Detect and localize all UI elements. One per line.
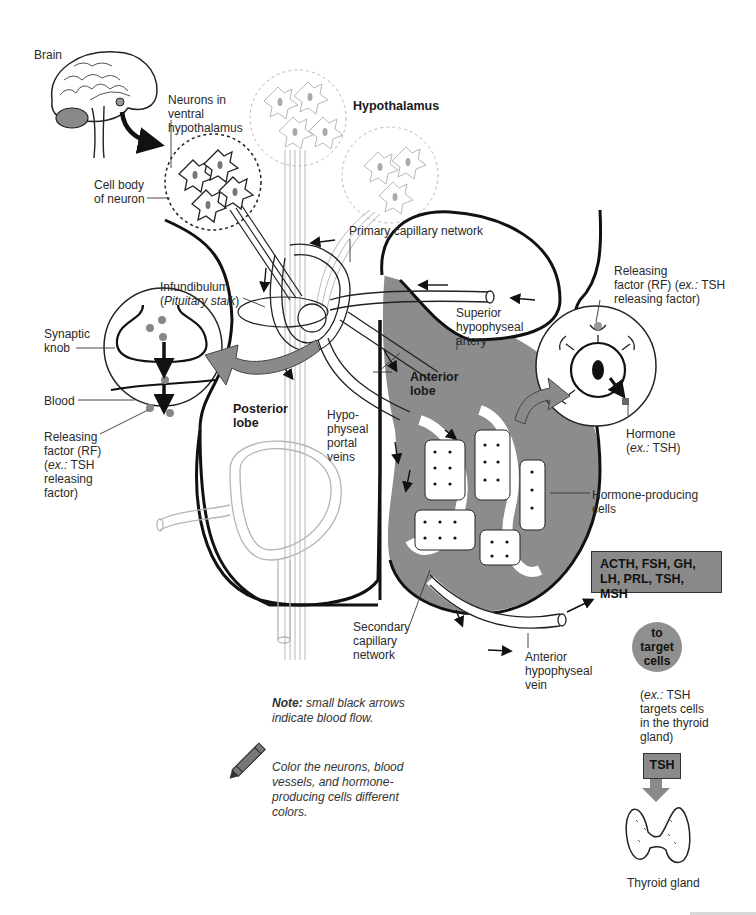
- label-primary-capillary-network: Primary capillary network: [349, 224, 483, 238]
- down-arrow-icon: [642, 778, 670, 802]
- label-hypothalamus: Hypothalamus: [353, 99, 439, 113]
- label-posterior-lobe: Posterior lobe: [233, 402, 288, 430]
- label-releasing-factor-right: Releasing factor (RF) (ex.: TSH releasin…: [614, 264, 725, 306]
- label-infundibulum: Infundibulum(Pituitary stalk): [160, 266, 239, 308]
- label-releasing-factor-left: Releasing factor (RF) (ex.: TSH releasin…: [44, 430, 101, 500]
- tsh-box: TSH: [643, 753, 681, 779]
- label-anterior-hypophyseal-vein: Anterior hypophyseal vein: [525, 650, 592, 692]
- label-target-example: (ex.: TSH targets cells in the thyroid g…: [640, 688, 709, 744]
- label-synaptic-knob: Synaptic knob: [44, 327, 90, 355]
- label-hypophyseal-portal-veins: Hypo- physeal portal veins: [327, 408, 368, 464]
- coloring-instruction: Color the neurons, blood vessels, and ho…: [272, 760, 412, 820]
- label-superior-hypophyseal-artery: Superior hypophyseal artery: [456, 306, 523, 348]
- target-cell-inset: [536, 306, 656, 426]
- anterior-pituitary-hormones-box: ACTH, FSH, GH, LH, PRL, TSH, MSH: [591, 551, 722, 593]
- target-cells-circle: to target cells: [632, 622, 682, 672]
- label-anterior-lobe: Anterior lobe: [410, 370, 459, 398]
- brain-illustration: [52, 52, 157, 158]
- label-hormone: Hormone (ex.: TSH): [626, 427, 680, 455]
- crayon-icon: [226, 743, 265, 782]
- note-blood-flow: Note: small black arrows indicate blood …: [272, 696, 412, 726]
- label-hormone-producing-cells: Hormone-producing cells: [592, 488, 698, 516]
- label-cell-body: Cell body of neuron: [94, 178, 145, 206]
- pituitary-diagram: Brain Neurons in ventral hypothalamus Hy…: [0, 0, 756, 915]
- label-blood: Blood: [44, 394, 75, 408]
- thyroid-illustration: [626, 808, 690, 863]
- label-secondary-capillary-network: Secondary capillary network: [353, 620, 410, 662]
- label-brain: Brain: [34, 48, 62, 62]
- label-thyroid-gland: Thyroid gland: [627, 876, 700, 890]
- label-neurons-ventral-hypothalamus: Neurons in ventral hypothalamus: [168, 93, 243, 135]
